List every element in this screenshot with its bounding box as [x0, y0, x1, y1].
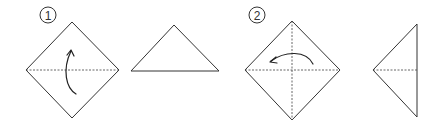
fold-left-arrow-icon — [270, 53, 313, 64]
fold-arrow-curve — [66, 51, 76, 94]
origami-diagram: 1 2 — [0, 0, 442, 130]
step-1-number-badge: 1 — [40, 7, 56, 23]
step-1: 1 — [26, 7, 219, 118]
step-number: 2 — [254, 9, 261, 23]
step-number: 1 — [45, 9, 52, 23]
step-2-number-badge: 2 — [249, 7, 265, 23]
folded-triangle-result — [373, 24, 417, 117]
fold-arrow-curve — [271, 53, 313, 64]
fold-up-arrow-icon — [66, 50, 76, 94]
step-2: 2 — [245, 7, 417, 120]
folded-triangle-result — [131, 25, 219, 71]
square-paper-diamond — [245, 21, 340, 120]
